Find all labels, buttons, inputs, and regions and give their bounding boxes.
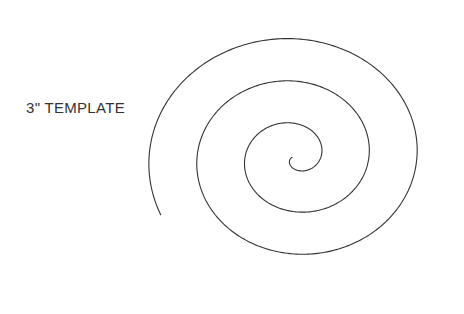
spiral-diagram — [0, 0, 464, 314]
template-sheet: 3" TEMPLATE — [0, 0, 464, 314]
spiral-outline-path — [149, 39, 417, 255]
